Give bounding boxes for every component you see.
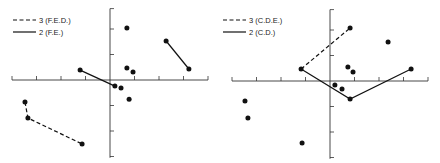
left-data-points: [22, 25, 191, 146]
series-line: [301, 69, 411, 99]
data-point: [124, 25, 129, 30]
right-series-lines: [301, 28, 411, 99]
legend-label-dashed: 3 (C.D.E.): [249, 16, 283, 25]
legend-label-dashed: 3 (F.E.D.): [39, 16, 71, 25]
data-point: [351, 70, 356, 75]
right-plot-panel: 3 (C.D.E.) 2 (C.D.): [223, 10, 428, 159]
data-point: [127, 97, 132, 102]
data-point: [332, 83, 337, 88]
data-point: [186, 67, 191, 72]
data-point: [242, 98, 247, 103]
series-line: [301, 28, 350, 69]
data-point: [22, 99, 27, 104]
data-point: [124, 66, 129, 71]
data-point: [245, 115, 250, 120]
data-point: [348, 97, 353, 102]
data-point: [80, 142, 85, 147]
legend-label-solid: 2 (C.D.): [249, 28, 276, 37]
data-point: [112, 84, 117, 89]
data-point: [340, 86, 345, 91]
data-point: [78, 68, 83, 73]
right-legend: 3 (C.D.E.) 2 (C.D.): [223, 16, 283, 37]
legend-label-solid: 2 (F.E.): [39, 28, 64, 37]
data-point: [409, 67, 414, 72]
left-legend: 3 (F.E.D.) 2 (F.E.): [13, 16, 71, 37]
data-point: [386, 39, 391, 44]
left-series-lines: [25, 41, 189, 144]
series-line: [25, 102, 82, 144]
data-point: [25, 115, 30, 120]
left-plot-panel: 3 (F.E.D.) 2 (F.E.): [12, 9, 208, 158]
data-point: [164, 38, 169, 43]
series-line: [166, 41, 189, 69]
data-point: [300, 140, 305, 145]
data-point: [345, 64, 350, 69]
data-point: [299, 67, 304, 72]
data-point: [348, 25, 353, 30]
figure: 3 (F.E.D.) 2 (F.E.) 3 (C.D.E.) 2 (C.D.): [0, 0, 440, 163]
data-point: [119, 85, 124, 90]
data-point: [131, 70, 136, 75]
